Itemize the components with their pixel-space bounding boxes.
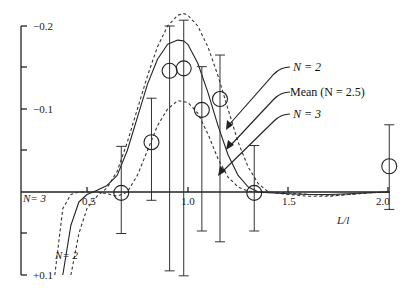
curves-group xyxy=(55,14,390,275)
x-tick-label-1-0: 1.0 xyxy=(181,195,195,207)
chart-figure: −0.2 −0.1 +0.1 0.5 1.0 1.5 2.0 L/l N = 2… xyxy=(0,0,414,293)
y-axis xyxy=(21,26,27,275)
annotation-n2: N = 2 xyxy=(292,60,321,74)
y-tick-label-mid: −0.1 xyxy=(33,103,53,115)
annotation-n3: N = 3 xyxy=(292,107,321,121)
x-tick-label-2-0: 2.0 xyxy=(376,195,390,207)
y-tick-label-top: −0.2 xyxy=(33,20,53,32)
x-tick-label-1-5: 1.5 xyxy=(282,195,296,207)
y-tick-label-bottom: +0.1 xyxy=(33,269,53,281)
chart-svg: −0.2 −0.1 +0.1 0.5 1.0 1.5 2.0 L/l N = 2… xyxy=(0,0,414,293)
x-axis-label: L/l xyxy=(336,214,349,226)
curve-mean-n-2-5- xyxy=(63,40,390,275)
curve-n-3 xyxy=(55,101,390,275)
annotation-mean: Mean (N = 2.5) xyxy=(290,85,365,99)
data-points-group xyxy=(114,20,397,276)
low-label-n3: N= 3 xyxy=(22,192,47,204)
low-label-n2: N= 2 xyxy=(54,249,79,261)
x-axis xyxy=(21,187,390,192)
